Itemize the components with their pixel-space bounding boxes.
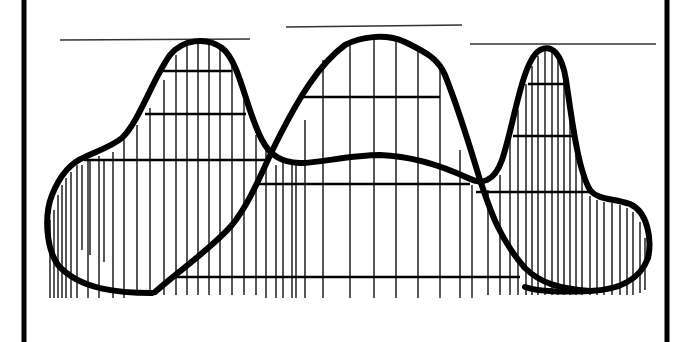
diagram-canvas <box>0 0 692 342</box>
surface-profile-drawing <box>0 0 692 342</box>
reference-line-center <box>286 25 462 27</box>
hatch-lines <box>50 38 645 298</box>
reference-line-left <box>60 39 250 40</box>
